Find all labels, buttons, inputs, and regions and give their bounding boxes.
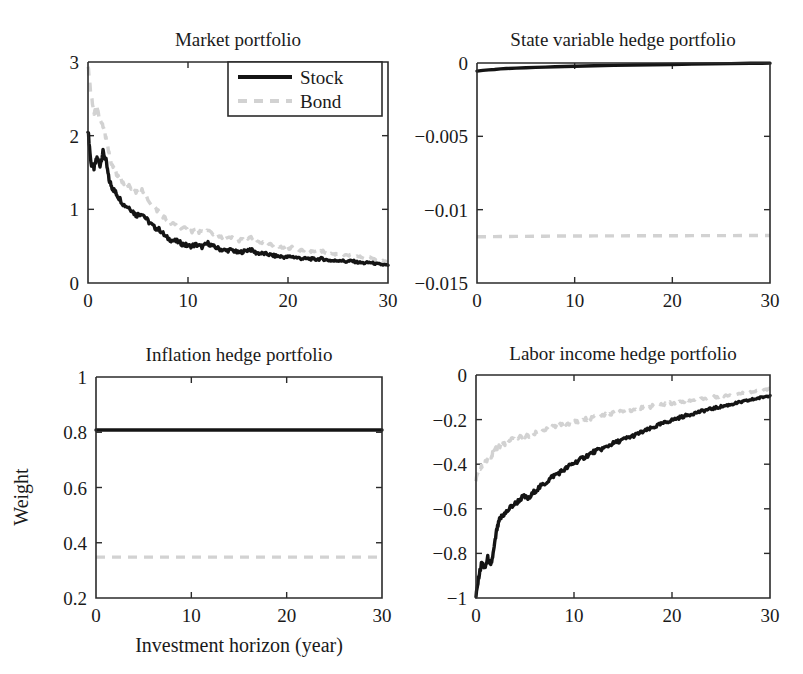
svg-text:20: 20 xyxy=(663,605,682,626)
svg-text:0.4: 0.4 xyxy=(63,533,87,554)
x-axis-title: Investment horizon (year) xyxy=(135,634,343,657)
legend-market-portfolio: Stock Bond xyxy=(228,62,382,116)
y-axis-title: Weight xyxy=(10,468,33,526)
svg-text:−0.4: −0.4 xyxy=(433,454,468,475)
four-panel-chart: Market portfolio 0123 0102030 Stock Bond… xyxy=(0,0,803,674)
svg-text:0: 0 xyxy=(91,605,101,626)
svg-text:1: 1 xyxy=(78,367,88,388)
svg-text:−0.015: −0.015 xyxy=(415,273,468,294)
svg-text:20: 20 xyxy=(277,605,296,626)
svg-text:20: 20 xyxy=(663,290,682,311)
svg-text:1: 1 xyxy=(70,199,80,220)
svg-text:−0.6: −0.6 xyxy=(433,499,467,520)
svg-text:10: 10 xyxy=(565,605,584,626)
panel-title-market-portfolio: Market portfolio xyxy=(175,29,301,50)
svg-text:0.2: 0.2 xyxy=(63,588,87,609)
svg-text:0: 0 xyxy=(471,605,481,626)
legend-label-bond: Bond xyxy=(300,91,342,112)
svg-text:30: 30 xyxy=(379,290,398,311)
panel-title-inflation-hedge: Inflation hedge portfolio xyxy=(146,344,333,365)
figure-background xyxy=(0,0,803,674)
svg-text:−0.8: −0.8 xyxy=(433,543,467,564)
svg-text:0: 0 xyxy=(472,290,482,311)
svg-text:−0.005: −0.005 xyxy=(415,126,468,147)
svg-text:0: 0 xyxy=(83,290,93,311)
svg-text:10: 10 xyxy=(182,605,201,626)
svg-text:30: 30 xyxy=(761,290,780,311)
svg-text:0.8: 0.8 xyxy=(63,422,87,443)
svg-text:0: 0 xyxy=(459,53,469,74)
legend-label-stock: Stock xyxy=(300,67,344,88)
svg-text:2: 2 xyxy=(70,126,80,147)
svg-text:20: 20 xyxy=(279,290,298,311)
svg-text:30: 30 xyxy=(761,605,780,626)
svg-text:0: 0 xyxy=(458,365,468,386)
svg-text:10: 10 xyxy=(179,290,198,311)
svg-text:0.6: 0.6 xyxy=(63,478,87,499)
panel-title-state-variable-hedge: State variable hedge portfolio xyxy=(510,29,735,50)
panel-title-labor-income-hedge: Labor income hedge portfolio xyxy=(509,343,736,364)
svg-text:0: 0 xyxy=(70,273,80,294)
svg-text:30: 30 xyxy=(373,605,392,626)
svg-text:−1: −1 xyxy=(447,588,467,609)
svg-text:−0.2: −0.2 xyxy=(433,410,467,431)
svg-text:3: 3 xyxy=(70,52,80,73)
figure-root: Market portfolio 0123 0102030 Stock Bond… xyxy=(0,0,803,674)
svg-text:−0.01: −0.01 xyxy=(424,200,468,221)
svg-text:10: 10 xyxy=(565,290,584,311)
